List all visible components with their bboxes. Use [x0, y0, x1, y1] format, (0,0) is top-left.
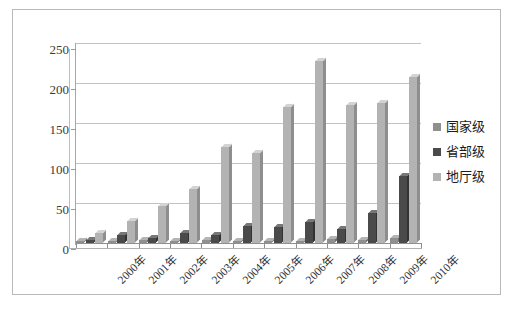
- bar-face: [368, 213, 376, 243]
- figure-caption: [12, 300, 501, 316]
- x-tickmark-1: [107, 243, 108, 248]
- x-axis-label-2005年: 2005年: [272, 254, 304, 286]
- bar-side: [291, 104, 294, 243]
- x-axis-label-2008年: 2008年: [367, 254, 399, 286]
- legend-label-省部级: 省部级: [446, 145, 485, 158]
- x-tickmark-6: [264, 243, 265, 248]
- bar-face: [315, 61, 323, 243]
- y-tick-label-150: 150: [50, 123, 70, 136]
- bar-face: [158, 206, 166, 243]
- bar-side: [229, 144, 232, 243]
- bar-group-2004年: [202, 43, 229, 243]
- bar-group-2008年: [327, 43, 354, 243]
- bar-face: [274, 227, 282, 243]
- bar-地厅级-2006年: [283, 107, 291, 243]
- x-axis-label-2006年: 2006年: [304, 254, 336, 286]
- legend-swatch-prefectural: [433, 173, 441, 181]
- bar-face: [127, 221, 135, 243]
- bar-side: [197, 185, 200, 242]
- y-tick-label-250: 250: [50, 43, 70, 56]
- bar-side: [135, 218, 138, 243]
- bar-地厅级-2007年: [315, 61, 323, 243]
- x-tickmark-4: [201, 243, 202, 248]
- legend-item-国家级[interactable]: 国家级: [433, 120, 505, 133]
- x-tickmark-2: [139, 243, 140, 248]
- x-tickmark-3: [170, 243, 171, 248]
- bar-省部级-2006年: [274, 227, 282, 243]
- y-tick-label-100: 100: [50, 163, 70, 176]
- bar-group-2001年: [108, 43, 135, 243]
- bar-face: [243, 226, 251, 243]
- y-tick-label-200: 200: [50, 83, 70, 96]
- bar-省部级-2008年: [337, 229, 345, 243]
- x-axis-label-2007年: 2007年: [335, 254, 367, 286]
- bar-group-2003年: [170, 43, 197, 243]
- bar-face: [95, 233, 103, 243]
- bar-face: [337, 229, 345, 243]
- bar-group-2007年: [296, 43, 323, 243]
- x-axis-floor-edge: [70, 248, 422, 249]
- bar-地厅级-2003年: [189, 189, 197, 243]
- bar-地厅级-2010年: [409, 77, 417, 243]
- bar-side: [166, 203, 169, 243]
- bar-face: [221, 147, 229, 243]
- bar-省部级-2005年: [243, 226, 251, 243]
- bar-side: [323, 57, 326, 242]
- bar-group-2010年: [390, 43, 417, 243]
- bar-省部级-2007年: [305, 222, 313, 243]
- bar-face: [346, 105, 354, 243]
- bar-地厅级-2004年: [221, 147, 229, 243]
- x-tickmark-5: [233, 243, 234, 248]
- bar-face: [211, 235, 219, 243]
- bar-地厅级-2009年: [377, 103, 385, 243]
- bar-地厅级-2002年: [158, 206, 166, 243]
- bar-group-2005年: [233, 43, 260, 243]
- bar-省部级-2004年: [211, 235, 219, 243]
- x-axis-label-2003年: 2003年: [210, 254, 242, 286]
- x-axis-label-2004年: 2004年: [241, 254, 273, 286]
- bar-地厅级-2001年: [127, 221, 135, 243]
- x-tickmark-10: [390, 243, 391, 248]
- x-tickmark-7: [296, 243, 297, 248]
- legend-swatch-national: [433, 123, 441, 131]
- y-axis-back-wall-line: [69, 49, 70, 249]
- legend-label-地厅级: 地厅级: [446, 170, 485, 183]
- bar-省部级-2003年: [180, 233, 188, 243]
- bar-side: [260, 149, 263, 242]
- x-tickmark-9: [358, 243, 359, 248]
- bar-side: [354, 102, 357, 243]
- bar-side: [417, 74, 420, 243]
- bar-group-2009年: [358, 43, 385, 243]
- plot-area: 050100150200250: [76, 43, 421, 243]
- legend-swatch-provincial: [433, 148, 441, 156]
- bar-省部级-2009年: [368, 213, 376, 243]
- x-axis-line: [76, 243, 422, 244]
- bar-face: [180, 233, 188, 243]
- bar-地厅级-2008年: [346, 105, 354, 243]
- x-tickmark-11: [421, 243, 422, 248]
- chart-legend: 国家级省部级地厅级: [433, 120, 505, 195]
- y-tickmark-0: [71, 249, 76, 250]
- x-axis-label-2010年: 2010年: [429, 254, 461, 286]
- bar-face: [409, 77, 417, 243]
- chart-figure-frame: 050100150200250 2000年2001年2002年2003年2004…: [12, 9, 501, 295]
- bar-face: [252, 153, 260, 243]
- bar-地厅级-2000年: [95, 233, 103, 243]
- figure-page: 050100150200250 2000年2001年2002年2003年2004…: [0, 0, 515, 319]
- legend-item-地厅级[interactable]: 地厅级: [433, 170, 505, 183]
- bar-group-2002年: [139, 43, 166, 243]
- x-tickmark-8: [327, 243, 328, 248]
- bar-group-2000年: [76, 43, 103, 243]
- x-axis-label-2009年: 2009年: [398, 254, 430, 286]
- x-tickmark-0: [76, 243, 77, 248]
- y-tick-label-50: 50: [56, 203, 69, 216]
- legend-item-省部级[interactable]: 省部级: [433, 145, 505, 158]
- bar-省部级-2001年: [117, 235, 125, 243]
- bar-group-2006年: [264, 43, 291, 243]
- x-axis-label-2002年: 2002年: [178, 254, 210, 286]
- bar-side: [385, 100, 388, 243]
- x-axis-label-2001年: 2001年: [147, 254, 179, 286]
- y-tick-label-0: 0: [63, 243, 70, 256]
- x-axis-label-2000年: 2000年: [116, 254, 148, 286]
- bar-省部级-2010年: [399, 176, 407, 243]
